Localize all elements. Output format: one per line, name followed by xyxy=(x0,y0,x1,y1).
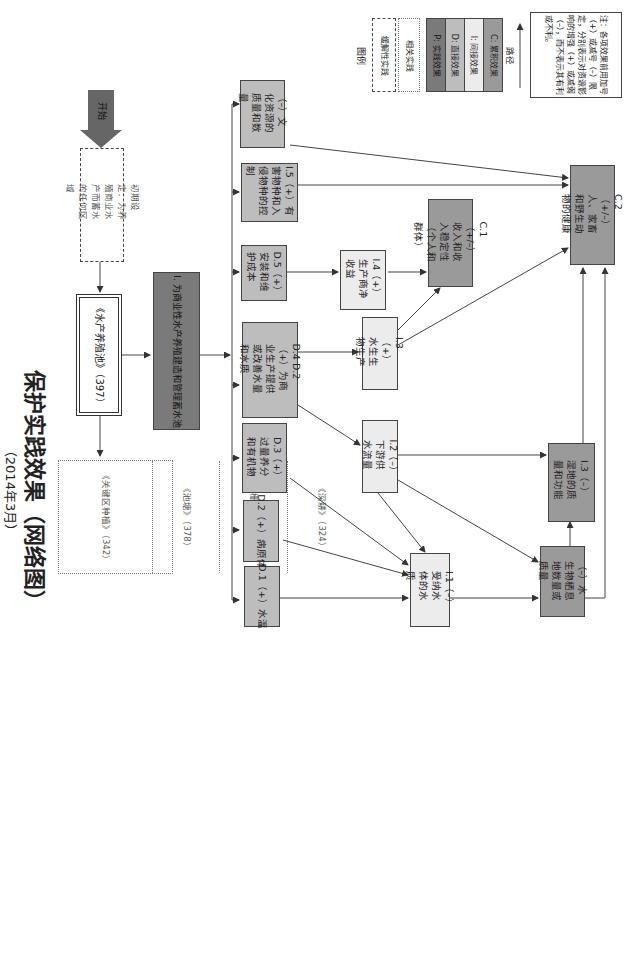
effect-D4-D2: D.4 D.2（+）为商业生产提供或改善水量和水质 xyxy=(242,322,298,418)
legend-path-label: 路径 xyxy=(502,40,516,70)
legend-mitigating-practice: 缓解性实践 xyxy=(372,18,396,92)
note-box: 注：各项效果前用加号（+）或减号（–）限定，分别表示对资源影响的增强（+）或减弱… xyxy=(530,12,622,98)
effect-cultural-resources: （–）文化资源的质量和数量 xyxy=(240,80,285,148)
effect-I4: I.4（+）生产商净收益 xyxy=(340,250,386,310)
effect-D1: D.1（+）水温 xyxy=(244,566,280,627)
action-box: I. 为商业性水产养殖建造和管理蓄水池 xyxy=(153,272,200,430)
effect-I1: I.1（–）受纳水体的水质 xyxy=(410,553,450,627)
related-practice: 《深耕》（324） xyxy=(288,461,354,573)
effect-D3: D.3（+）过量养分和有机物 xyxy=(242,423,287,493)
legend-cumulative-effect: C: 累积效果 xyxy=(483,18,503,92)
legend-practice-effect: P: 实践效果 xyxy=(426,18,446,92)
legend-title: 图例 xyxy=(352,20,368,90)
effect-C1: C.1（+/–）收入和收入稳定性（个人和群体） xyxy=(428,199,473,287)
related-practice: 《关键区种植》（342） xyxy=(59,461,153,573)
initial-setting-box: 初期设定：为养殖商业水产而蓄水的任何区域 xyxy=(80,148,124,262)
page-title: 保护实践效果（网络图） xyxy=(21,369,53,611)
effect-I3: I.3（+）水生生物生产 xyxy=(362,317,398,390)
related-practice: 《池塘》（378） xyxy=(153,461,220,573)
effect-I2: I.2（–）下游供水流量 xyxy=(362,420,398,493)
page-subtitle: （2014年3月） xyxy=(2,369,21,611)
effect-D5: D.5（+）安装和维护成本 xyxy=(241,245,287,301)
effect-C2: C.2（+/–）人、家畜和野生动物的健康 xyxy=(570,165,615,265)
effect-aquatic-habitat: （–）水生物栖息地数量或质量 xyxy=(540,546,585,617)
legend-direct-effect: D: 直接效果 xyxy=(445,18,465,92)
page-title-block: 保护实践效果（网络图） （2014年3月） xyxy=(4,330,50,650)
effect-wetland: I.3（–）湿地的质量和功能 xyxy=(548,443,595,522)
legend-related-practice: 相关实践 xyxy=(398,18,420,92)
related-practices: 《关键区种植》（342） 《池塘》（378） 《栅栏》（382） 《深耕》（32… xyxy=(58,460,173,574)
effect-I5: I.5（+）有害物种和入侵物种的控制 xyxy=(241,163,298,222)
legend-indirect-effect: I: 间接效果 xyxy=(464,18,484,92)
start-label: 开始 xyxy=(95,101,108,119)
start-arrow-icon xyxy=(80,130,122,148)
practice-box: 《水产养殖池》（397） xyxy=(76,294,122,416)
effect-D2: D.2（+）病原体 xyxy=(243,500,279,562)
